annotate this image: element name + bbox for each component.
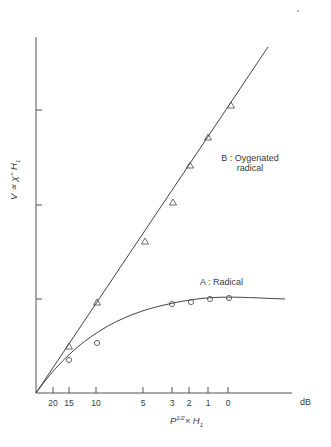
series-b-fit-line [36, 47, 268, 393]
x-tick-label-1: 1 [206, 398, 211, 408]
y-axis-title-subscript: 1 [15, 160, 21, 163]
x-unit-label: dB [300, 397, 311, 407]
series-b-label-line2: radical [210, 163, 290, 173]
series-a-fit-curve [36, 297, 285, 393]
x-axis-title-rest: × H [185, 415, 200, 426]
x-axis-title: P1/2× H1 [170, 415, 203, 428]
x-axis-title-exponent: 1/2 [176, 415, 184, 421]
x-axis-title-subscript: 1 [200, 422, 203, 428]
chart-canvas [0, 0, 331, 447]
x-tick-label-5: 5 [141, 398, 146, 408]
series-a-markers [66, 295, 231, 362]
x-tick-label-0: 0 [226, 398, 231, 408]
y-axis-title-main: V ∝ χ'' H [8, 163, 19, 200]
x-ticks [53, 387, 228, 393]
x-tick-label-10: 10 [91, 398, 100, 408]
series-b-label-line1: B : Oygenated [210, 153, 290, 163]
y-axis-title: V ∝ χ'' H1 [8, 160, 21, 200]
x-tick-label-3: 3 [170, 398, 175, 408]
series-b-label: B : Oygenated radical [210, 153, 290, 173]
x-tick-label-2: 2 [187, 398, 192, 408]
series-a-label: A : Radical [200, 277, 243, 287]
x-tick-label-15: 15 [64, 398, 73, 408]
x-tick-label-20: 20 [48, 398, 57, 408]
y-ticks [36, 110, 42, 299]
